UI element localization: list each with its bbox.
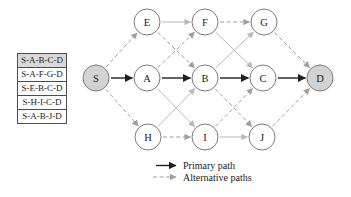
path-list-row: S-A-F-G-D	[18, 68, 67, 82]
path-label: S-A-B-C-D	[18, 54, 67, 68]
path-list-row: S-E-B-C-D	[18, 82, 67, 96]
node-H: H	[135, 124, 161, 150]
node-I: I	[192, 124, 218, 150]
node-F: F	[192, 9, 218, 35]
node-label-C: C	[259, 73, 266, 84]
edge-G-D	[275, 33, 310, 68]
path-list: S-A-B-C-DS-A-F-G-DS-E-B-C-DS-H-I-C-DS-A-…	[17, 53, 67, 124]
node-label-D: D	[316, 73, 324, 84]
path-list-row: S-A-B-C-D	[18, 54, 67, 68]
node-label-H: H	[144, 132, 152, 143]
legend-alternative-label: Alternative paths	[183, 172, 252, 183]
node-label-B: B	[201, 73, 208, 84]
node-J: J	[249, 124, 275, 150]
node-label-E: E	[144, 17, 150, 28]
edge-S-E	[106, 33, 137, 67]
node-label-J: J	[260, 132, 264, 143]
node-label-A: A	[143, 73, 151, 84]
path-list-row: S-A-B-J-D	[18, 110, 67, 124]
node-S: S	[83, 65, 109, 91]
nodes-layer: SABCDEFGHIJ	[83, 9, 333, 150]
path-list-row: S-H-I-C-D	[18, 96, 67, 110]
node-G: G	[251, 9, 277, 35]
node-label-G: G	[260, 17, 268, 28]
node-label-I: I	[203, 132, 207, 143]
node-label-S: S	[93, 73, 99, 84]
edge-J-D	[273, 88, 310, 126]
path-label: S-H-I-C-D	[18, 96, 67, 110]
diagram-canvas: S-A-B-C-DS-A-F-G-DS-E-B-C-DS-H-I-C-DS-A-…	[0, 0, 351, 197]
node-C: C	[250, 65, 276, 91]
path-label: S-A-F-G-D	[18, 68, 67, 82]
node-B: B	[192, 65, 218, 91]
node-E: E	[134, 9, 160, 35]
path-label: S-E-B-C-D	[18, 82, 67, 96]
legend: Primary path Alternative paths	[153, 160, 252, 183]
node-D: D	[307, 65, 333, 91]
edge-S-H	[106, 89, 138, 126]
path-label: S-A-B-J-D	[18, 110, 67, 124]
node-A: A	[134, 65, 160, 91]
legend-primary-label: Primary path	[183, 160, 235, 171]
node-label-F: F	[202, 17, 208, 28]
